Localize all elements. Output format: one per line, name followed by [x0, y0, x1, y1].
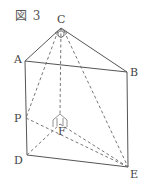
edge-BE	[127, 72, 128, 167]
label-D: D	[14, 154, 23, 167]
label-P: P	[14, 112, 22, 125]
edge-CB	[61, 28, 127, 72]
label-F: F	[58, 125, 66, 138]
edge-DF	[27, 124, 60, 155]
label-C: C	[57, 13, 65, 26]
label-B: B	[130, 66, 138, 79]
line-C-to-P	[26, 31, 58, 118]
edge-DE	[27, 155, 128, 167]
edge-AD	[25, 61, 27, 155]
label-E: E	[130, 168, 138, 181]
prism-diagram: C A B P F D E	[0, 0, 147, 183]
edge-CF	[60, 28, 61, 115]
edge-AB	[25, 61, 127, 72]
line-P-to-E	[26, 118, 128, 167]
label-A: A	[13, 53, 23, 66]
